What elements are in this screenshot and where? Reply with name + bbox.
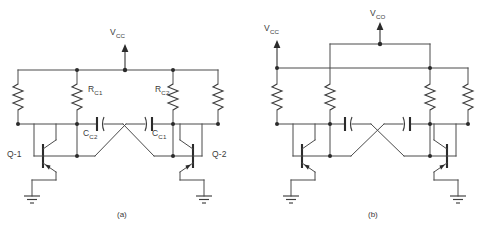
junction-dot <box>171 68 175 72</box>
capacitor-cc2-a <box>97 117 123 131</box>
resistor-rc2-a <box>168 84 178 124</box>
label-rc2: RC2 <box>155 85 169 96</box>
junction-dot <box>378 42 382 46</box>
resistor-right-outer-a <box>213 84 223 124</box>
junction-dot <box>428 122 432 126</box>
junction-dot <box>428 154 432 158</box>
label-vcc-a: VCC <box>110 28 125 39</box>
label-vco-b-sub: CO <box>376 13 385 20</box>
label-q1: Q-1 <box>7 150 22 159</box>
label-vcc-a-sub: CC <box>116 32 125 39</box>
panel-a-schematic <box>13 44 223 203</box>
junction-dot <box>171 122 175 126</box>
circuit-figure: VCC RC1 RC2 CC2 CC1 Q-1 Q-2 (a) VCC VCO … <box>0 0 502 232</box>
transistor-right-b <box>434 124 456 180</box>
transistor-q2-a <box>180 124 202 180</box>
resistor-inner-right-b <box>425 84 435 124</box>
cross-coupling-b <box>351 124 404 156</box>
junction-dot <box>428 66 432 70</box>
label-cc2: CC2 <box>83 129 97 140</box>
label-q2: Q-2 <box>212 150 227 159</box>
caption-panel-b: (b) <box>368 210 378 219</box>
resistor-rc1-a <box>72 84 82 124</box>
junction-dot <box>275 66 279 70</box>
transistor-left-b <box>293 124 315 180</box>
resistor-left-outer-a <box>13 84 23 124</box>
junction-dot <box>328 154 332 158</box>
ground-symbol-q2-a <box>196 196 212 203</box>
label-rc2-sub: C2 <box>161 89 169 96</box>
label-rc1: RC1 <box>88 85 102 96</box>
label-vcc-b: VCC <box>264 24 279 35</box>
ground-symbol-b1 <box>283 196 299 203</box>
ground-symbol-b2 <box>450 196 466 203</box>
circuit-schematic-canvas <box>0 0 502 232</box>
ground-symbol-q1-a <box>24 196 40 203</box>
label-cc1: CC1 <box>152 129 166 140</box>
panel-b-schematic <box>272 22 473 203</box>
junction-dot <box>75 68 79 72</box>
junction-dot <box>171 154 175 158</box>
junction-dot <box>123 68 127 72</box>
label-rc1-sub: C1 <box>94 89 102 96</box>
caption-panel-a: (a) <box>117 210 127 219</box>
label-vco-b: VCO <box>370 9 385 20</box>
capacitor-right-b <box>384 117 410 131</box>
junction-dot <box>75 154 79 158</box>
label-cc2-sub: C2 <box>89 133 97 140</box>
junction-dot <box>328 122 332 126</box>
junction-dot <box>216 122 220 126</box>
resistor-inner-left-b <box>325 84 335 124</box>
junction-dot <box>75 122 79 126</box>
transistor-q1-a <box>34 124 56 180</box>
capacitor-left-b <box>345 117 371 131</box>
label-cc1-sub: C1 <box>158 133 166 140</box>
resistor-left-outer-b <box>272 84 282 124</box>
supply-arrow-vcc-b <box>274 40 281 68</box>
junction-dot <box>275 122 279 126</box>
junction-dot <box>16 122 20 126</box>
resistor-right-outer-b <box>463 84 473 124</box>
supply-arrow-vco-b <box>377 22 384 44</box>
supply-arrow-a <box>122 44 129 70</box>
junction-dot <box>466 122 470 126</box>
capacitor-cc1-a <box>126 117 152 131</box>
cross-coupling-a <box>95 124 154 156</box>
label-vcc-b-sub: CC <box>270 28 279 35</box>
